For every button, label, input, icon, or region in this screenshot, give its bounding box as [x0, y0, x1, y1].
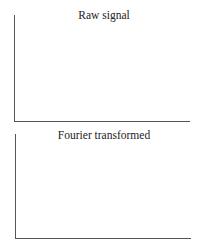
raw-signal-panel: Raw signal: [0, 0, 205, 125]
fourier-x-axis: [15, 238, 191, 239]
raw-signal-title: Raw signal: [78, 9, 129, 21]
fourier-panel: Fourier transformed: [0, 125, 205, 250]
raw-signal-y-axis: [14, 15, 15, 122]
fourier-title: Fourier transformed: [58, 129, 150, 141]
fourier-y-axis: [15, 134, 16, 239]
raw-signal-x-axis: [14, 121, 190, 122]
